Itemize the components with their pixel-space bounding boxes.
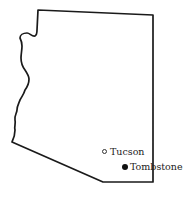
tombstone-label: Tombstone — [130, 162, 183, 172]
tucson-marker-icon — [102, 149, 107, 154]
tombstone-marker-icon — [122, 164, 128, 170]
tucson-label: Tucson — [110, 147, 145, 157]
